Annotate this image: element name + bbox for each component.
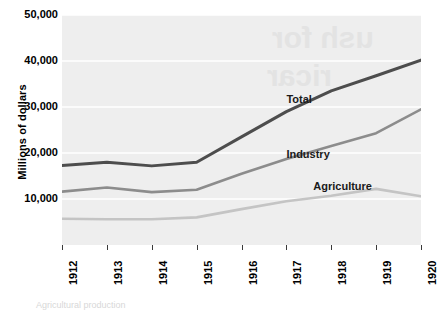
x-tick-mark <box>107 245 108 250</box>
series-label-industry: Industry <box>286 148 329 160</box>
y-tick-label: 50,000 <box>2 8 58 20</box>
y-tick-label: 10,000 <box>2 192 58 204</box>
plot-area: ush forricar TotalIndustryAgriculture <box>62 15 421 245</box>
x-tick-mark <box>376 245 377 250</box>
x-tick-mark <box>152 245 153 250</box>
series-line-agriculture <box>62 189 421 219</box>
x-tick-label: 1912 <box>67 261 79 285</box>
series-lines <box>62 15 421 245</box>
x-tick-mark <box>286 245 287 250</box>
x-tick-mark <box>331 245 332 250</box>
x-tick-label: 1917 <box>291 261 303 285</box>
x-axis: 191219131914191519161917191819191920 <box>62 245 421 305</box>
x-tick-label: 1914 <box>157 261 169 285</box>
x-tick-label: 1916 <box>247 261 259 285</box>
x-tick-mark <box>421 245 422 250</box>
x-tick-mark <box>197 245 198 250</box>
x-tick-label: 1913 <box>112 261 124 285</box>
y-tick-label: 20,000 <box>2 146 58 158</box>
series-label-agriculture: Agriculture <box>313 180 372 192</box>
x-tick-label: 1918 <box>336 261 348 285</box>
y-tick-label: 40,000 <box>2 54 58 66</box>
series-line-total <box>62 60 421 166</box>
x-tick-label: 1919 <box>381 261 393 285</box>
series-label-total: Total <box>286 93 311 105</box>
y-axis-tick-labels: 10,00020,00030,00040,00050,000 <box>0 0 58 310</box>
y-tick-label: 30,000 <box>2 100 58 112</box>
x-tick-label: 1915 <box>202 261 214 285</box>
caption-remnant: Agricultural production <box>36 300 126 310</box>
x-tick-mark <box>242 245 243 250</box>
x-tick-label: 1920 <box>426 261 438 285</box>
x-tick-mark <box>62 245 63 250</box>
